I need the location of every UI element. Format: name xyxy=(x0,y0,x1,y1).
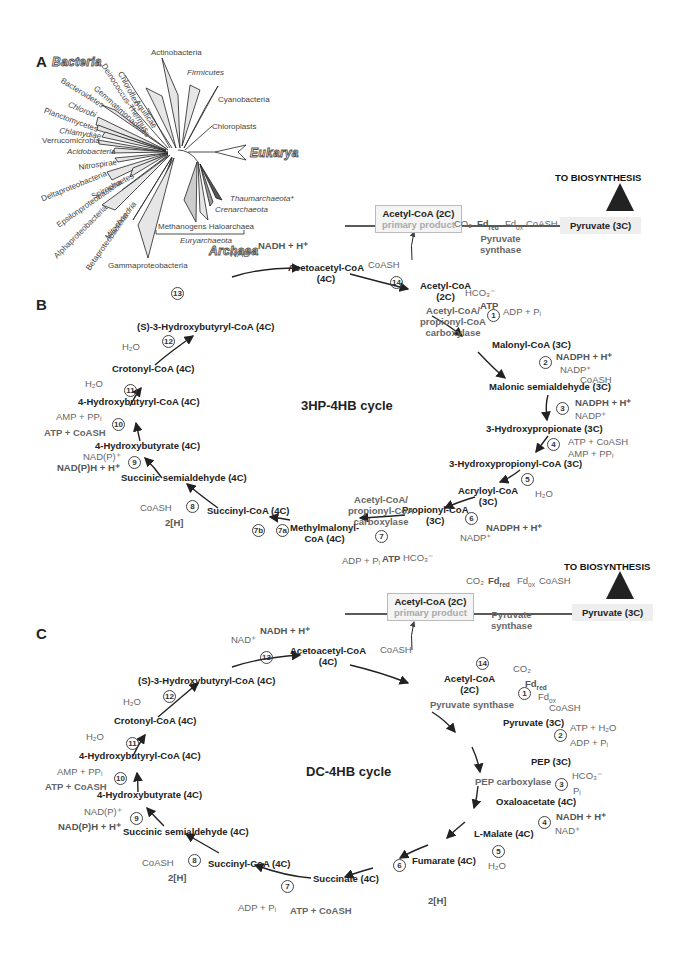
cof-h2o-12-c: H₂O xyxy=(123,696,141,707)
cof-hco3-7-b: HCO₃⁻ xyxy=(403,552,433,563)
met-succinyl-coa-b: Succinyl-CoA (4C) xyxy=(207,505,290,516)
step-13-c: 13 xyxy=(260,651,273,664)
pyruvate-box-c: Pyruvate (3C) xyxy=(572,604,653,621)
domain-eukarya: Eukarya xyxy=(250,146,299,160)
cof-hco3-1-b: HCO₃⁻ xyxy=(465,287,495,298)
cof-h2o-11-b: H₂O xyxy=(85,378,103,389)
enz-pyruvate-synthase-c: Pyruvate synthase xyxy=(430,699,514,710)
met-s3-hydroxybutyryl-coa-c: (S)-3-Hydroxybutyryl-CoA (4C) xyxy=(138,675,275,686)
cof-nadp-6-b: NADP⁺ xyxy=(460,532,491,543)
fd-ox-b: Fdox xyxy=(505,218,523,233)
cof-h2o-5-b: H₂O xyxy=(535,488,553,499)
taxon-methanogens-haloarchaea: Methanogens Haloarchaea xyxy=(158,222,254,231)
cof-nadp-9-b: NAD(P)⁺ xyxy=(83,451,121,462)
cof-atp-10-b: ATP + CoASH xyxy=(44,427,106,438)
met-4-hydroxybutyrate-b: 4-Hydroxybutyrate (4C) xyxy=(95,440,200,451)
cof-adp-7-c: ADP + Pᵢ xyxy=(238,902,276,913)
taxon-gammaproteobacteria: Gammaproteobacteria xyxy=(108,261,188,270)
enz-acc-b: Acetyl-CoA/propionyl-CoAcarboxylase xyxy=(420,305,486,338)
pyruvate-synthase-c: Pyruvatesynthase xyxy=(491,609,532,631)
cof-co2-1-c: CO₂ xyxy=(513,663,531,674)
panel-b-label: B xyxy=(36,296,47,313)
panel-a-label: A xyxy=(36,53,47,70)
cof-coash14-c: CoASH xyxy=(380,644,412,655)
cof-2h-8-b: 2[H] xyxy=(165,517,183,528)
cof-nadph-6-b: NADPH + H⁺ xyxy=(486,522,542,533)
met-s3-hydroxybutyryl-coa-b: (S)-3-Hydroxybutyryl-CoA (4C) xyxy=(137,321,274,332)
taxon-thaumarchaeota: Thaumarchaeota* xyxy=(230,194,294,203)
step-2-b: 2 xyxy=(539,356,552,369)
cof-pi-3-c: Pᵢ xyxy=(573,785,581,796)
met-pyruvate-c: Pyruvate (3C) xyxy=(503,717,564,728)
cof-adp-2-c: ADP + Pᵢ xyxy=(570,737,608,748)
taxon-actinobacteria: Actinobacteria xyxy=(151,48,202,57)
step-13-b: 13 xyxy=(171,287,184,300)
product-box-c: Acetyl-CoA (2C) primary product xyxy=(387,593,474,621)
cof-amp-10-c: AMP + PPᵢ xyxy=(57,766,102,777)
step-10-c: 10 xyxy=(114,772,127,785)
step-7b-b: 7b xyxy=(252,524,265,537)
met-acetyl-coa-c: Acetyl-CoA(2C) xyxy=(444,673,495,695)
cof-nad-4-c: NAD⁺ xyxy=(555,825,580,836)
step-12-b: 12 xyxy=(162,335,175,348)
coash-pyr-c: CoASH xyxy=(539,575,571,586)
met-succinic-semialdehyde-b: Succinic semialdehyde (4C) xyxy=(121,472,247,483)
cof-nadph-9-c: NAD(P)H + H⁺ xyxy=(58,821,121,832)
cof-nad-c: NAD⁺ xyxy=(231,634,256,645)
step-7a-b: 7a xyxy=(276,524,289,537)
step-8-b: 8 xyxy=(186,500,199,513)
pyruvate-box-b: Pyruvate (3C) xyxy=(560,217,641,234)
co2-c: CO₂ xyxy=(466,575,484,586)
met-succinyl-coa-c: Succinyl-CoA (4C) xyxy=(208,858,291,869)
to-biosynthesis-b: TO BIOSYNTHESIS xyxy=(555,172,641,183)
cof-nad-b: NAD⁺ xyxy=(230,248,255,259)
co2-b: CO₂ xyxy=(454,218,472,229)
met-pep-c: PEP (3C) xyxy=(531,756,571,767)
taxon-crenarchaeota: Crenarchaeota xyxy=(215,205,268,214)
met-malonyl-coa-b: Malonyl-CoA (3C) xyxy=(492,339,571,350)
cof-coash-8-b: CoASH xyxy=(140,502,172,513)
cof-nadp-9-c: NAD(P)⁺ xyxy=(84,806,122,817)
met-l-malate-c: L-Malate (4C) xyxy=(474,828,534,839)
met-acetoacetyl-coa-b: Acetoacetyl-CoA(4C) xyxy=(288,262,364,284)
step-5-c: 5 xyxy=(492,845,505,858)
taxon-acidobacteria: Acidobacteria xyxy=(67,147,115,156)
cof-nadh-c: NADH + H⁺ xyxy=(260,625,310,636)
step-8-c: 8 xyxy=(188,854,201,867)
cof-coash-1-c: CoASH xyxy=(549,702,581,713)
met-crotonyl-coa-c: Crotonyl-CoA (4C) xyxy=(114,715,197,726)
taxon-verrucomicrobia: Verrucomicrobia xyxy=(42,136,100,145)
cof-2h-8-c: 2[H] xyxy=(168,872,186,883)
cof-coash-8-c: CoASH xyxy=(142,857,174,868)
cof-hco3-3-c: HCO₃⁻ xyxy=(572,770,602,781)
step-5-b: 5 xyxy=(521,473,534,486)
cof-amp-10-b: AMP + PPᵢ xyxy=(56,411,101,422)
step-3-b: 3 xyxy=(556,402,569,415)
met-4-hydroxybutyryl-coa-c: 4-Hydroxybutyryl-CoA (4C) xyxy=(79,750,201,761)
step-11-c: 11 xyxy=(126,737,139,750)
fd-ox-c: Fdox xyxy=(517,575,535,590)
cof-atp-4-b: ATP + CoASH xyxy=(568,436,628,447)
met-oxaloacetate-c: Oxaloacetate (4C) xyxy=(496,796,576,807)
step-2-c: 2 xyxy=(554,729,567,742)
cof-atp-7-c: ATP + CoASH xyxy=(290,905,352,916)
met-crotonyl-coa-b: Crotonyl-CoA (4C) xyxy=(112,363,195,374)
cof-nadh-4-c: NADH + H⁺ xyxy=(556,811,606,822)
cof-h2o-12-b: H₂O xyxy=(122,341,140,352)
cof-coash14-b: CoASH xyxy=(368,259,400,270)
cof-atp-7-b: ATP xyxy=(382,553,400,564)
met-methylmalonyl-coa-b: Methylmalonyl-CoA (4C) xyxy=(290,522,359,544)
enz-pep-carboxylase-c: PEP carboxylase xyxy=(475,776,551,787)
met-3-hydroxypropionyl-coa-b: 3-Hydroxypropionyl-CoA (3C) xyxy=(449,458,582,469)
met-acetoacetyl-coa-c: Acetoacetyl-CoA(4C) xyxy=(290,645,366,667)
met-succinic-semialdehyde-c: Succinic semialdehyde (4C) xyxy=(123,826,249,837)
met-fumarate-c: Fumarate (4C) xyxy=(412,855,476,866)
to-biosynthesis-c: TO BIOSYNTHESIS xyxy=(564,561,650,572)
cof-nadp-3-b: NADP⁺ xyxy=(575,410,606,421)
step-9-c: 9 xyxy=(130,812,143,825)
step-6-b: 6 xyxy=(465,512,478,525)
met-4-hydroxybutyryl-coa-b: 4-Hydroxybutyryl-CoA (4C) xyxy=(78,396,200,407)
step-3-c: 3 xyxy=(555,778,568,791)
product-title: Acetyl-CoA (2C) xyxy=(382,208,455,219)
cof-adp-7-b: ADP + Pᵢ xyxy=(342,555,380,566)
